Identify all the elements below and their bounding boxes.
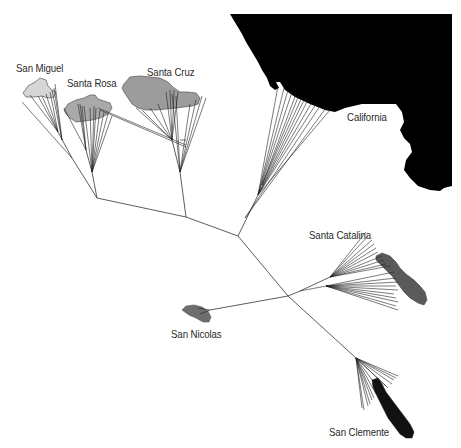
tree-internal-branches bbox=[58, 132, 356, 358]
label-san-clemente: San Clemente bbox=[329, 426, 389, 438]
santa-cruz-island bbox=[122, 76, 200, 110]
santa-rosa-island bbox=[64, 95, 112, 122]
santa-catalina-island bbox=[376, 253, 427, 305]
california-mainland bbox=[230, 14, 452, 191]
san-nicolas-island bbox=[182, 305, 211, 322]
label-santa-catalina: Santa Catalina bbox=[309, 229, 371, 241]
label-santa-cruz: Santa Cruz bbox=[147, 66, 194, 78]
label-santa-rosa: Santa Rosa bbox=[67, 77, 117, 89]
label-san-miguel: San Miguel bbox=[16, 62, 63, 74]
label-san-nicolas: San Nicolas bbox=[171, 328, 222, 340]
tips-santa-catalina bbox=[300, 232, 398, 310]
label-california: California bbox=[347, 111, 387, 123]
phylogeny-map bbox=[0, 0, 461, 448]
san-miguel-island bbox=[23, 78, 56, 98]
